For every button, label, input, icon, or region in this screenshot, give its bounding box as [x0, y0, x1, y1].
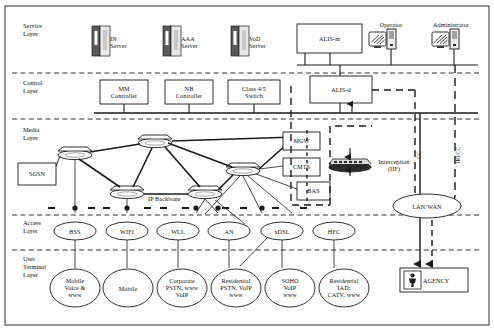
mm-controller-label: MMController	[100, 85, 148, 99]
router-r1	[58, 147, 92, 160]
interception-iif-icon	[329, 148, 371, 176]
layer-label-access: AccessLayer	[23, 219, 41, 235]
layer-label-control: ControlLayer	[23, 79, 43, 95]
user-node-soho: SOHO VoIP www	[267, 277, 313, 299]
operator-label: Operator	[365, 21, 417, 28]
operator-workstation-icon	[369, 29, 396, 49]
aaa-server-label: AAAServer	[181, 35, 213, 49]
alis-m-label: ALIS-m	[297, 35, 362, 42]
sgsn-label: SGSN	[18, 170, 56, 177]
cmts-label: CMTS	[283, 163, 320, 170]
bas-label: BAS	[297, 187, 330, 194]
ip-backbone-band	[48, 205, 307, 210]
user-node-mobile: Mobile	[105, 285, 151, 292]
router-r3	[110, 186, 144, 199]
mgw-label: MGW	[283, 137, 320, 144]
router-r2	[138, 135, 172, 148]
access-node-xdsl: xDSL	[261, 228, 303, 235]
access-ovals	[54, 222, 355, 240]
nb-controller-label: NBController	[165, 85, 213, 99]
access-node-an: AN	[208, 228, 250, 235]
layer-label-user-terminal: UserTerminalLayer	[23, 255, 46, 279]
access-node-hfc: HFC	[313, 228, 355, 235]
in-server-icon	[92, 26, 110, 56]
access-node-wll: WLL	[157, 228, 199, 235]
user-node-residential-iad: Residential IAD: CATV, www	[320, 277, 368, 299]
aaa-server-icon	[163, 26, 181, 56]
access-node-bss: BSS	[54, 228, 96, 235]
layer-label-media: MediaLayer	[23, 126, 39, 142]
agency-label: AGENCY	[423, 277, 465, 284]
router-r5	[226, 163, 260, 176]
iri-cc-link-label: IRI/CC	[455, 134, 461, 176]
backbone-mesh	[79, 137, 295, 194]
alis-d-label: ALIS-d	[310, 86, 372, 93]
agency-person-icon	[404, 271, 421, 289]
lan-wan-label: LAN/WAN	[393, 203, 461, 210]
ip-backbone-label: IP Backbone	[148, 195, 208, 202]
layer-label-service: ServiceLayer	[23, 22, 42, 38]
interception-label: Interception(IIF)	[368, 158, 420, 172]
user-node-residential-pstn: Residential PSTN, VoIP www	[212, 277, 260, 299]
vod-server-label: VoDServer	[249, 35, 281, 49]
in-server-label: INServer	[110, 35, 140, 49]
access-node-wifi: WIFI	[106, 228, 148, 235]
sgsn-link	[56, 156, 60, 166]
user-node-mobile-voice-www: Mobile Voice & www	[52, 277, 98, 299]
class45-switch-label: Class 4/5Switch	[228, 85, 280, 99]
right-trunks	[420, 65, 455, 264]
cc-link-label: CC	[416, 140, 422, 170]
administrator-label: Administrator	[421, 21, 481, 28]
network-architecture-diagram: ServiceLayer ControlLayer MediaLayer Acc…	[0, 0, 494, 331]
administrator-workstation-icon	[432, 29, 459, 49]
user-node-corporate: Corporate PSTN, www VoIP	[158, 277, 206, 299]
vod-server-icon	[231, 26, 249, 56]
